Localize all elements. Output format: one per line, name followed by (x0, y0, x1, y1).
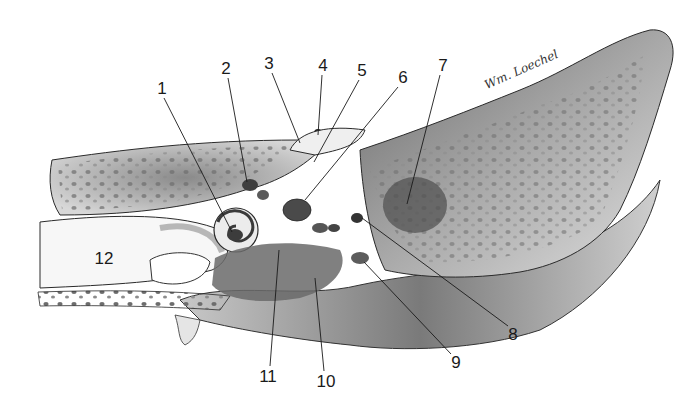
structure-6 (283, 199, 311, 221)
label-4: 4 (318, 57, 327, 74)
label-11: 11 (259, 368, 277, 385)
label-3: 3 (264, 55, 273, 72)
structure-small-2 (328, 224, 340, 232)
top-ridge (290, 128, 365, 155)
label-2: 2 (221, 60, 230, 77)
lower-spongy-strip (38, 291, 230, 310)
bone-drawing (0, 0, 679, 413)
label-12: 12 (95, 250, 114, 267)
structure-9 (351, 252, 369, 264)
label-5: 5 (357, 62, 366, 79)
label-9: 9 (451, 354, 460, 371)
structure-8 (351, 213, 363, 223)
canal-opening (150, 253, 210, 284)
label-10: 10 (317, 373, 336, 390)
structure-2b (257, 190, 269, 200)
label-6: 6 (398, 69, 407, 86)
lower-tip (175, 315, 200, 345)
label-8: 8 (508, 326, 517, 343)
label-1: 1 (157, 80, 166, 97)
dark-cavity-right (383, 177, 447, 233)
label-7: 7 (438, 57, 447, 74)
structure-2 (242, 179, 258, 191)
cochlea-center (227, 229, 243, 241)
structure-small-1 (312, 223, 328, 233)
temporal-bone-illustration: 1 2 3 4 5 6 7 8 9 10 11 12 Wm. Loechel (0, 0, 679, 413)
